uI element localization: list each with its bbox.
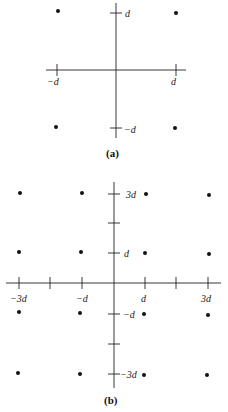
a-label-y-neg: −d <box>124 124 137 135</box>
figure-b-points <box>16 191 211 377</box>
b-point <box>17 250 21 254</box>
b-label-x-m1: −d <box>76 293 89 304</box>
b-point <box>205 373 209 377</box>
b-point <box>207 193 211 197</box>
b-label-y-m3: −3d <box>120 369 138 380</box>
b-point <box>207 252 211 256</box>
figure-b <box>6 182 221 388</box>
b-point <box>143 251 147 255</box>
b-label-x-p3: 3d <box>200 293 212 304</box>
b-point <box>142 312 146 316</box>
a-label-x-pos: d <box>171 76 177 87</box>
b-point <box>78 372 82 376</box>
b-point <box>80 191 84 195</box>
a-label-y-pos: d <box>125 8 131 19</box>
b-point <box>144 192 148 196</box>
b-label-y-m1: −d <box>123 309 136 320</box>
b-point <box>142 373 146 377</box>
figure-a <box>46 3 186 138</box>
b-point <box>17 310 21 314</box>
constellation-diagrams: −d d d −d (a) −3d −d <box>0 0 228 412</box>
a-point <box>54 125 58 129</box>
b-label-x-m3: −3d <box>10 293 28 304</box>
b-caption: (b) <box>104 394 118 407</box>
a-point <box>56 9 60 13</box>
b-label-x-p1: d <box>141 293 147 304</box>
b-point <box>78 311 82 315</box>
b-point <box>18 191 22 195</box>
b-point <box>79 250 83 254</box>
b-point <box>16 371 20 375</box>
b-point <box>206 313 210 317</box>
a-label-x-neg: −d <box>47 76 60 87</box>
b-label-y-p3: 3d <box>125 189 137 200</box>
b-label-y-p1: d <box>124 248 130 259</box>
a-point <box>174 11 178 15</box>
a-point <box>173 126 177 130</box>
a-caption: (a) <box>106 147 119 160</box>
